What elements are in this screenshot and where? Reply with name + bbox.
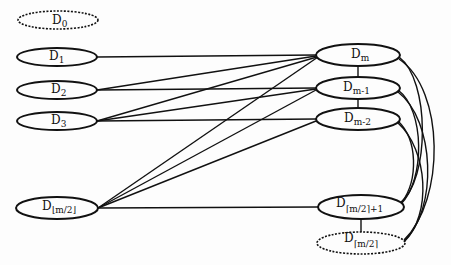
graph-svg: D0 D1 D2 D3 D⌊m/2⌋ Dm Dm-1 Dm-2 D⌈m/2⌉+1… xyxy=(0,0,451,265)
diagram-canvas: D0 D1 D2 D3 D⌊m/2⌋ Dm Dm-1 Dm-2 D⌈m/2⌉+1… xyxy=(0,0,451,265)
edge-dfloor-dm xyxy=(98,57,318,208)
edge-d3-dm1 xyxy=(97,89,316,121)
edge-dfloor-dm1 xyxy=(98,90,316,208)
edge-d2-dm xyxy=(97,56,316,90)
nodes xyxy=(16,11,405,254)
edge-d3-dm2 xyxy=(97,119,316,121)
edge-dfloor-dceil1 xyxy=(98,207,318,208)
edge-dm1-dceil1 xyxy=(398,90,419,204)
edge-dm-dceil1 xyxy=(399,57,422,203)
edge-dfloor-dm2 xyxy=(98,121,316,208)
edge-d1-dm xyxy=(97,55,316,57)
